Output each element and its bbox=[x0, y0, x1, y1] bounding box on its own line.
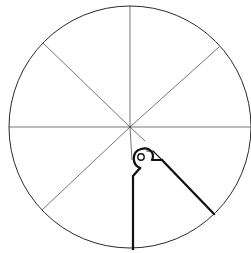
radial-lines bbox=[9, 6, 251, 210]
highlighted-sector bbox=[133, 148, 214, 249]
divided-circle-diagram bbox=[0, 0, 251, 253]
